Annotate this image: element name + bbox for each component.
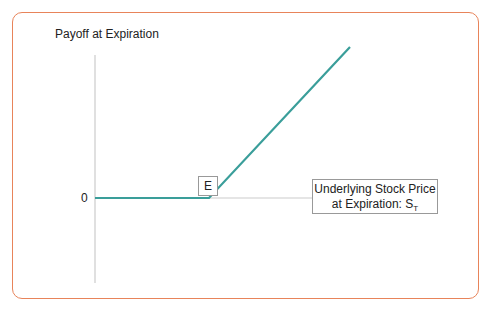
strike-label: E [198, 176, 218, 196]
payoff-plot [0, 0, 492, 311]
x-axis-title: Underlying Stock Price at Expiration: ST [312, 179, 438, 214]
payoff-line [95, 47, 350, 198]
